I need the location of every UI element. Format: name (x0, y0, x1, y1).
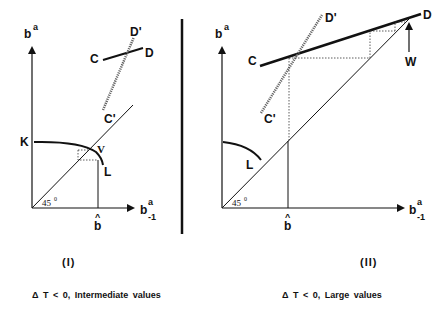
label-k: K (20, 135, 29, 149)
label-c-prime: C' (104, 112, 116, 126)
x-axis-label: b (140, 203, 147, 217)
angle-label: 45 (232, 198, 242, 208)
label-d-prime: D' (325, 11, 337, 25)
label-d: D (423, 8, 432, 22)
y-axis-superscript: a (33, 22, 39, 32)
label-l: L (104, 165, 111, 179)
label-c: C (248, 54, 257, 68)
x-axis-subscript: -1 (417, 212, 425, 222)
label-w: W (405, 55, 417, 69)
y-axis-label: b (24, 27, 31, 41)
x-axis-superscript: a (417, 197, 423, 207)
label-c-prime: C' (264, 112, 276, 126)
caption-text-2: Δ T < 0, Large values (282, 290, 382, 300)
label-c: C (90, 52, 99, 66)
x-axis-superscript: a (148, 197, 154, 207)
label-layer: b a b a -1 45 0 ^ b K V L C D C' D' b a … (0, 0, 444, 317)
angle-degree: 0 (54, 196, 57, 202)
label-d: D (145, 46, 154, 60)
caption-text-1: Δ T < 0, Intermediate values (32, 290, 161, 300)
label-d-prime: D' (130, 25, 142, 39)
label-l: L (246, 158, 253, 172)
y-axis-superscript: a (224, 22, 230, 32)
x-axis-subscript: -1 (148, 212, 156, 222)
bhat-label: b (94, 219, 101, 233)
caption-number-1: (I) (62, 256, 75, 268)
y-axis-label: b (215, 27, 222, 41)
angle-degree: 0 (244, 196, 247, 202)
caption-number-2: (II) (360, 256, 377, 268)
x-axis-label: b (409, 203, 416, 217)
bhat-label: b (284, 219, 291, 233)
angle-label: 45 (42, 198, 52, 208)
label-v: V (97, 143, 105, 155)
